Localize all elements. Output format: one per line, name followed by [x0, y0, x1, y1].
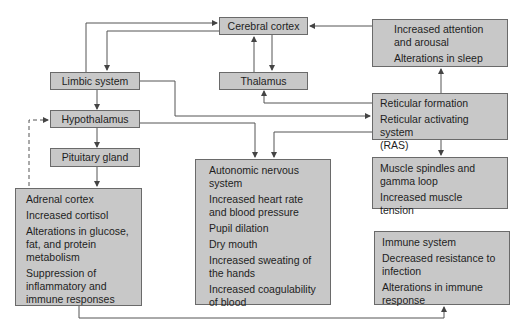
node-line: Increased muscle tension — [380, 191, 501, 217]
node-line: Increased heart rate and blood pressure — [209, 193, 324, 219]
node-reticular-formation: Reticular formation Reticular activating… — [372, 93, 508, 140]
node-hypothalamus: Hypothalamus — [50, 110, 140, 128]
node-line: Increased coagulability of blood — [209, 283, 324, 309]
node-cerebral-cortex: Cerebral cortex — [219, 17, 308, 35]
node-label: Cerebral cortex — [228, 20, 300, 33]
node-line: Decreased resistance to infection — [382, 252, 503, 278]
node-label: Hypothalamus — [61, 113, 128, 126]
node-muscle-spindles: Muscle spindles and gamma loop Increased… — [372, 157, 508, 209]
node-line: Increased cortisol — [26, 209, 135, 222]
node-label: Limbic system — [62, 75, 129, 88]
node-label: Thalamus — [240, 75, 286, 88]
node-adrenal-cortex: Adrenal cortex Increased cortisol Altera… — [15, 188, 142, 306]
edge-reticular-to-autonomic — [274, 132, 372, 157]
node-line: Adrenal cortex — [26, 193, 135, 206]
node-line: Suppression of inflammatory and immune r… — [26, 267, 135, 306]
node-autonomic-nervous-system: Autonomic nervous system Increased heart… — [195, 159, 331, 305]
edge-cortex-to-limbic — [107, 31, 219, 70]
node-line: Alterations in glucose, fat, and protein… — [26, 225, 135, 264]
node-line: Reticular formation — [380, 97, 501, 110]
node-line: Alterations in sleep — [394, 52, 501, 65]
edge-reticular-to-thalamus — [264, 91, 372, 103]
edge-adrenal-to-hypothalamus — [29, 120, 48, 186]
node-pituitary-gland: Pituitary gland — [50, 148, 140, 167]
node-line: Reticular activating system (RAS) — [380, 113, 501, 152]
edge-hypothalamus-to-autonomic — [139, 123, 255, 157]
node-immune-system: Immune system Decreased resistance to in… — [374, 231, 510, 305]
node-line: Muscle spindles and gamma loop — [380, 162, 501, 188]
edge-limbic-to-cortex — [86, 23, 217, 72]
stress-response-diagram: Cerebral cortex Thalamus Limbic system H… — [0, 0, 523, 332]
node-line: Autonomic nervous system — [209, 164, 324, 190]
node-line: Increased sweating of the hands — [209, 254, 324, 280]
node-line: Increased attention and arousal — [394, 23, 501, 49]
node-line: Immune system — [382, 236, 503, 249]
node-line: Dry mouth — [209, 238, 324, 251]
node-line: Alterations in immune response — [382, 281, 503, 307]
node-thalamus: Thalamus — [219, 72, 308, 90]
node-attention-arousal: Increased attention and arousal Alterati… — [372, 19, 508, 67]
node-line: Pupil dilation — [209, 222, 324, 235]
node-limbic-system: Limbic system — [50, 72, 140, 90]
node-label: Pituitary gland — [62, 151, 129, 164]
